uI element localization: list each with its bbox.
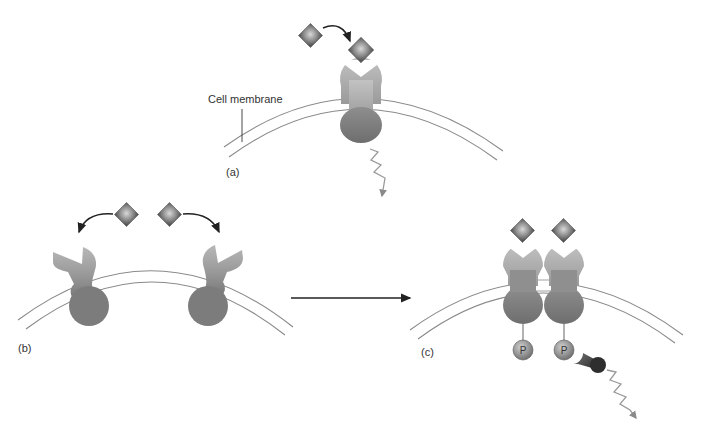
phosphate-label-right: P	[561, 345, 568, 356]
panel-b-label: (b)	[18, 343, 31, 354]
panel-a	[224, 23, 503, 196]
cell-membrane-b	[18, 271, 293, 335]
phosphate-label-left: P	[520, 345, 527, 356]
ligand-b-left	[114, 202, 138, 226]
receptor-a	[340, 57, 382, 143]
signal-wave-a	[370, 149, 385, 196]
arrow-b-left	[79, 214, 113, 232]
ligand-c-left	[510, 218, 534, 242]
phosphate-right: P	[554, 340, 574, 360]
panel-b	[18, 202, 293, 335]
diagram-svg: P P	[0, 0, 705, 430]
diagram-canvas: P P Cell membrane (a) (b) (c)	[0, 0, 705, 430]
signal-wave-c	[607, 370, 636, 418]
ligand-bound-a	[348, 37, 373, 62]
phosphate-left: P	[513, 340, 533, 360]
cell-membrane-label: Cell membrane	[208, 94, 283, 105]
panel-c: P P	[410, 218, 683, 418]
ligand-c-right	[551, 218, 575, 242]
ligand-free-a	[298, 23, 322, 47]
receptor-c-right	[544, 241, 584, 324]
arrow-b-right	[183, 214, 219, 232]
receptor-b-right	[188, 245, 243, 326]
ligand-b-right	[157, 202, 181, 226]
receptor-c-left	[503, 241, 543, 324]
binding-arrow-a	[323, 26, 350, 41]
panel-c-label: (c)	[421, 347, 434, 358]
receptor-b-left	[53, 247, 109, 326]
panel-a-label: (a)	[226, 167, 239, 178]
